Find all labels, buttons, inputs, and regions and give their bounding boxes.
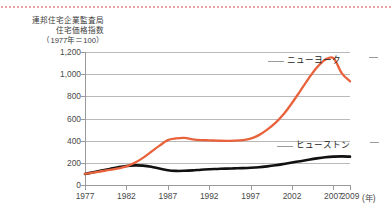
- houston-leader-right: [370, 142, 379, 143]
- x-tick-2007: [333, 185, 334, 190]
- x-tick-label-1987: 1987: [148, 191, 188, 201]
- x-axis-line: [85, 185, 350, 186]
- x-tick-label-1977: 1977: [65, 191, 105, 201]
- y-tick-label-600: 600: [37, 114, 81, 124]
- houston-leader-left: [277, 146, 293, 147]
- caption-line-2: 住宅価格指数: [8, 26, 104, 36]
- x-tick-1992: [209, 185, 210, 190]
- y-tick-label-1000: 1,000: [37, 69, 81, 79]
- y-tick-label-400: 400: [37, 136, 81, 146]
- y-axis-caption: 連邦住宅企業監査局 住宅価格指数 （1977年＝100）: [8, 16, 104, 47]
- y-tick-label-0: 0: [37, 180, 81, 190]
- x-tick-1977: [85, 185, 86, 190]
- x-tick-label-1982: 1982: [106, 191, 146, 201]
- top-dotted-rule: [0, 6, 392, 8]
- x-tick-label-1992: 1992: [189, 191, 229, 201]
- plot-area: [85, 52, 350, 185]
- new-york-leader-right: [369, 57, 378, 58]
- x-tick-1982: [126, 185, 127, 190]
- y-tick-label-1200: 1,200: [37, 47, 81, 57]
- caption-line-3: （1977年＝100）: [8, 36, 104, 46]
- x-tick-1987: [168, 185, 169, 190]
- new-york-leader-left: [268, 61, 284, 62]
- new-york-line: [85, 57, 350, 174]
- x-tick-2002: [292, 185, 293, 190]
- y-tick-labels: 02004006008001,0001,200: [33, 52, 81, 185]
- x-axis-unit: (年): [362, 191, 376, 203]
- y-tick-label-200: 200: [37, 158, 81, 168]
- caption-line-1: 連邦住宅企業監査局: [8, 16, 104, 26]
- series-label-new-york: ニューヨーク: [287, 53, 341, 65]
- series-label-houston: ヒューストン: [296, 138, 350, 150]
- x-tick-2009: [350, 185, 351, 190]
- series-lines: [85, 52, 350, 185]
- x-tick-label-1997: 1997: [231, 191, 271, 201]
- x-tick-label-2002: 2002: [272, 191, 312, 201]
- chart-root: 連邦住宅企業監査局 住宅価格指数 （1977年＝100） 02004006008…: [0, 0, 392, 214]
- x-tick-1997: [251, 185, 252, 190]
- houston-line: [85, 156, 350, 174]
- y-tick-label-800: 800: [37, 91, 81, 101]
